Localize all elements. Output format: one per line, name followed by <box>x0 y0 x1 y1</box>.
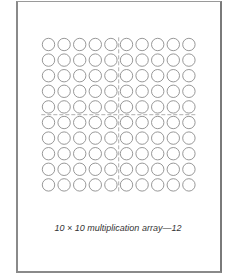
array-circle <box>183 38 195 50</box>
array-circle <box>136 85 148 97</box>
array-circle <box>152 132 164 144</box>
figure-caption: 10 × 10 multiplication array—12 <box>16 223 220 233</box>
array-circle <box>105 101 117 113</box>
array-circle <box>167 179 179 191</box>
array-circle <box>42 148 54 160</box>
array-circle <box>58 54 70 66</box>
array-circle <box>152 163 164 175</box>
array-circle <box>42 101 54 113</box>
array-circle <box>58 132 70 144</box>
array-circle <box>167 70 179 82</box>
array-circle <box>120 54 132 66</box>
array-circle <box>120 70 132 82</box>
array-circle <box>136 70 148 82</box>
array-circle <box>74 38 86 50</box>
array-circle <box>105 70 117 82</box>
array-circle <box>167 163 179 175</box>
array-circle <box>136 101 148 113</box>
array-circle <box>89 116 101 128</box>
array-circle <box>58 116 70 128</box>
array-circle <box>42 54 54 66</box>
array-circle <box>89 85 101 97</box>
array-circle <box>105 179 117 191</box>
array-circle <box>105 116 117 128</box>
array-circle <box>74 54 86 66</box>
array-circle <box>58 101 70 113</box>
array-circle <box>136 116 148 128</box>
array-circle <box>74 132 86 144</box>
array-circle <box>183 54 195 66</box>
array-circle <box>89 179 101 191</box>
array-circle <box>152 54 164 66</box>
array-circle <box>152 70 164 82</box>
array-circle <box>136 148 148 160</box>
array-circle <box>89 54 101 66</box>
array-circle <box>89 101 101 113</box>
array-circle <box>183 179 195 191</box>
array-circle <box>183 116 195 128</box>
array-circle <box>58 163 70 175</box>
array-circle <box>74 70 86 82</box>
array-circle <box>105 163 117 175</box>
array-circle <box>152 101 164 113</box>
array-circle <box>74 148 86 160</box>
array-circle <box>120 85 132 97</box>
array-circle <box>105 132 117 144</box>
array-circle <box>167 54 179 66</box>
array-circle <box>152 116 164 128</box>
array-circle <box>89 70 101 82</box>
array-circle <box>167 116 179 128</box>
array-circle <box>152 38 164 50</box>
array-circle <box>120 38 132 50</box>
array-circle <box>89 148 101 160</box>
array-circle <box>136 179 148 191</box>
array-circle <box>167 38 179 50</box>
array-circle <box>42 38 54 50</box>
array-circle <box>42 85 54 97</box>
array-circle <box>120 101 132 113</box>
array-circle <box>152 85 164 97</box>
array-circle <box>58 38 70 50</box>
array-circle <box>58 85 70 97</box>
array-circle <box>42 163 54 175</box>
array-circle <box>58 148 70 160</box>
array-circle <box>183 101 195 113</box>
array-circle <box>74 101 86 113</box>
array-circle <box>105 38 117 50</box>
array-circle <box>89 132 101 144</box>
array-circle <box>120 179 132 191</box>
array-circle <box>136 54 148 66</box>
array-circle <box>183 70 195 82</box>
array-circle <box>136 38 148 50</box>
array-circle <box>152 148 164 160</box>
array-circle <box>183 132 195 144</box>
array-circle <box>183 148 195 160</box>
array-circle <box>136 132 148 144</box>
array-circle <box>74 163 86 175</box>
array-circle <box>167 132 179 144</box>
array-circle <box>183 163 195 175</box>
array-circle <box>167 101 179 113</box>
array-circle <box>136 163 148 175</box>
array-circle <box>120 163 132 175</box>
array-circle <box>152 179 164 191</box>
array-circle <box>74 85 86 97</box>
array-circle <box>58 179 70 191</box>
array-circle <box>42 116 54 128</box>
array-circle <box>42 132 54 144</box>
array-circle <box>105 54 117 66</box>
array-circle <box>74 179 86 191</box>
array-circle <box>42 70 54 82</box>
array-circle <box>120 148 132 160</box>
array-circle <box>183 85 195 97</box>
array-circle <box>74 116 86 128</box>
array-circle <box>89 38 101 50</box>
array-circle <box>120 132 132 144</box>
array-circle <box>42 179 54 191</box>
array-circle <box>167 148 179 160</box>
array-circle <box>58 70 70 82</box>
array-circle <box>105 148 117 160</box>
array-circle <box>105 85 117 97</box>
array-circle <box>120 116 132 128</box>
array-circle <box>167 85 179 97</box>
